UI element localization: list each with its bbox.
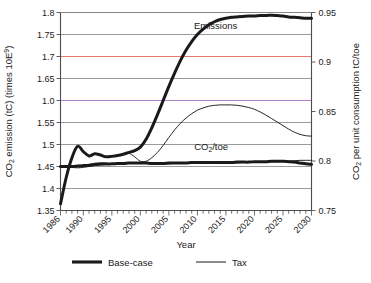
x-tick-label-1995: 1995 (92, 214, 113, 235)
y-tick-label-1.55: 1.55 (37, 118, 55, 128)
y2-tick-label-0.8: 0.8 (319, 156, 332, 166)
y2-tick-label-0.75: 0.75 (319, 206, 337, 216)
co2-per-toe-label: CO2/toe (194, 141, 228, 153)
co2-emission-line-chart: 1986199019952000200520102015202020252030… (0, 0, 371, 283)
y-tick-label-1.65: 1.65 (37, 74, 55, 84)
x-axis-ticks (61, 211, 312, 216)
chart-legend: Base-caseTax (72, 257, 247, 268)
y-axis-right-ticks (312, 13, 316, 211)
y-tick-label-1.4: 1.4 (42, 184, 55, 194)
y-tick-label-1.35: 1.35 (37, 206, 55, 216)
plot-frame (61, 13, 312, 211)
y-tick-label-1.0: 1.0 (42, 96, 55, 106)
x-tick-label-2005: 2005 (149, 214, 170, 235)
series-emissions-base-case (61, 15, 312, 204)
x-axis-title: Year (176, 239, 195, 250)
y-axis-right-tick-labels: 0.750.80.850.90.95 (319, 8, 337, 216)
y-tick-label-1.7: 1.7 (42, 52, 55, 62)
x-tick-label-1986: 1986 (41, 214, 62, 235)
x-tick-label-2030: 2030 (292, 214, 313, 235)
y-tick-label-1.8: 1.8 (42, 8, 55, 18)
chart-annotations: EmissionsCO2/toe (194, 20, 238, 153)
legend-label-tax: Tax (232, 257, 247, 268)
x-tick-label-2015: 2015 (206, 214, 227, 235)
y-axis-left-title: CO2 emission (tC) (times 10E9) (3, 46, 15, 178)
data-series (61, 15, 312, 204)
y-axis-left-tick-labels: 1.351.41.451.51.551.01.651.71.751.8 (37, 8, 55, 216)
y-tick-label-1.45: 1.45 (37, 162, 55, 172)
x-tick-label-1990: 1990 (63, 214, 84, 235)
x-tick-label-2000: 2000 (121, 214, 142, 235)
y-tick-label-1.75: 1.75 (37, 30, 55, 40)
y-axis-left-ticks (57, 13, 61, 211)
y2-tick-label-0.85: 0.85 (319, 107, 337, 117)
x-tick-label-2025: 2025 (263, 214, 284, 235)
emissions-label: Emissions (194, 20, 238, 31)
y2-tick-label-0.9: 0.9 (319, 57, 332, 67)
chart-figure: 1986199019952000200520102015202020252030… (0, 0, 371, 283)
y-axis-right-title: CO2 per unit consumption tC/toe (350, 43, 362, 180)
y-tick-label-1.5: 1.5 (42, 140, 55, 150)
legend-label-base-case: Base-case (108, 257, 153, 268)
series-emissions-tax (61, 105, 312, 204)
x-axis-tick-labels: 1986199019952000200520102015202020252030 (41, 214, 313, 235)
x-tick-label-2020: 2020 (235, 214, 256, 235)
y2-tick-label-0.95: 0.95 (319, 8, 337, 18)
x-tick-label-2010: 2010 (178, 214, 199, 235)
